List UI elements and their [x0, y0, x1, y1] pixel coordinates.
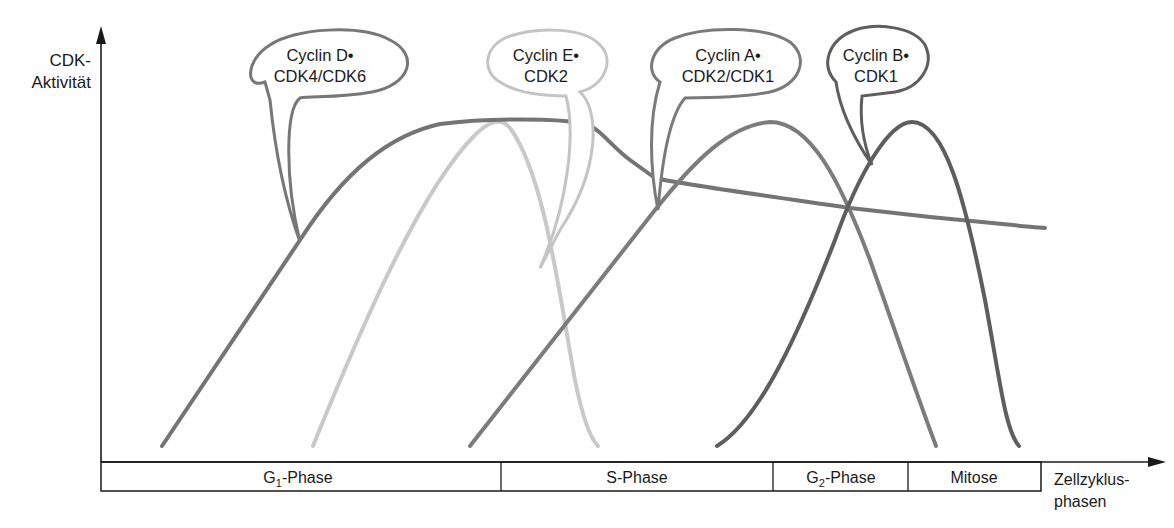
cyclin-a-line2: CDK2/CDK1 [682, 67, 775, 85]
y-axis: CDK- Aktivität [31, 26, 106, 462]
callout-cyclin-b: Cyclin B• CDK1 [828, 26, 928, 165]
phase-g1: G1-Phase [263, 469, 332, 489]
y-axis-arrow-icon [96, 26, 106, 44]
phase-s: S-Phase [606, 469, 667, 486]
y-axis-label-line2: Aktivität [31, 73, 91, 92]
callout-cyclin-d: Cyclin D• CDK4/CDK6 [251, 30, 408, 242]
cyclin-e-line1: Cyclin E• [513, 46, 580, 64]
cyclin-e-line2: CDK2 [524, 67, 568, 85]
cyclin-a-line1: Cyclin A• [695, 46, 761, 64]
cyclin-b-line2: CDK1 [854, 67, 898, 85]
cyclin-b-line1: Cyclin B• [843, 46, 910, 64]
y-axis-label-line1: CDK- [49, 51, 91, 70]
cdk-activity-diagram: CDK- Aktivität G1-Phase S-Phase G2-Phase… [0, 0, 1174, 528]
x-axis-arrow-icon [1148, 457, 1166, 467]
phase-g2: G2-Phase [806, 469, 875, 489]
cyclin-d-line2: CDK4/CDK6 [274, 67, 367, 85]
x-axis-label-line1: Zellzyklus- [1054, 471, 1130, 488]
x-axis-label-line2: phasen [1054, 493, 1107, 510]
curve-cyclin-b [717, 122, 1019, 446]
phase-mitose: Mitose [950, 469, 997, 486]
curve-cyclin-d [162, 120, 1045, 447]
cyclin-d-line1: Cyclin D• [286, 46, 353, 64]
activity-curves [162, 120, 1045, 447]
phase-bar: G1-Phase S-Phase G2-Phase Mitose Zellzyk… [101, 457, 1166, 510]
